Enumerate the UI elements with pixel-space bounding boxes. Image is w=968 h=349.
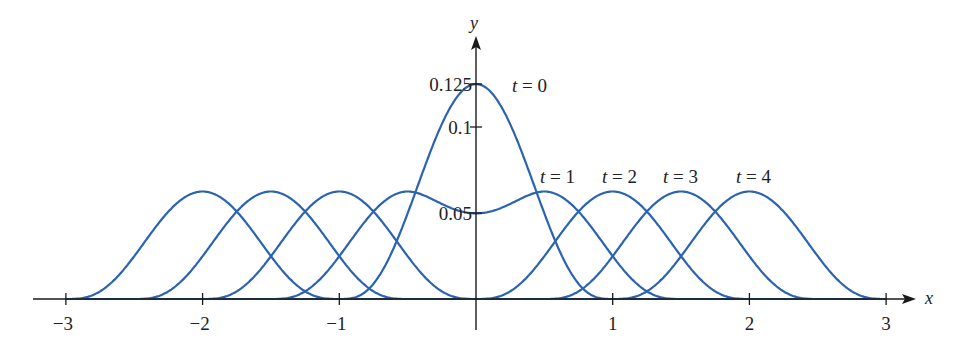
label-t2-rest: = 2 [607, 166, 637, 187]
y-axis-label: y [468, 13, 478, 33]
x-axis-label: x [924, 288, 933, 308]
label-t2: t = 2 [602, 166, 637, 187]
label-t1-rest: = 1 [545, 166, 575, 187]
x-tick-label: −3 [53, 313, 73, 334]
label-t3-rest: = 3 [668, 166, 698, 187]
x-tick-label: 3 [881, 313, 891, 334]
label-t4-rest: = 4 [741, 166, 771, 187]
x-tick-label: −2 [189, 313, 209, 334]
label-t1: t = 1 [540, 166, 575, 187]
y-tick-label: 0.05 [439, 203, 472, 224]
y-tick-label: 0.1 [448, 117, 472, 138]
label-t4: t = 4 [736, 166, 771, 187]
label-t0-rest: = 0 [517, 75, 547, 96]
x-tick-label: −1 [326, 313, 346, 334]
label-t3: t = 3 [663, 166, 698, 187]
label-t0: t = 0 [512, 75, 547, 96]
wave-chart: x y −3−2−1123 0.050.10.125 t = 0 t = 1 t… [0, 0, 968, 349]
x-tick-label: 2 [745, 313, 755, 334]
y-tick-label: 0.125 [429, 74, 472, 95]
x-tick-label: 1 [608, 313, 618, 334]
